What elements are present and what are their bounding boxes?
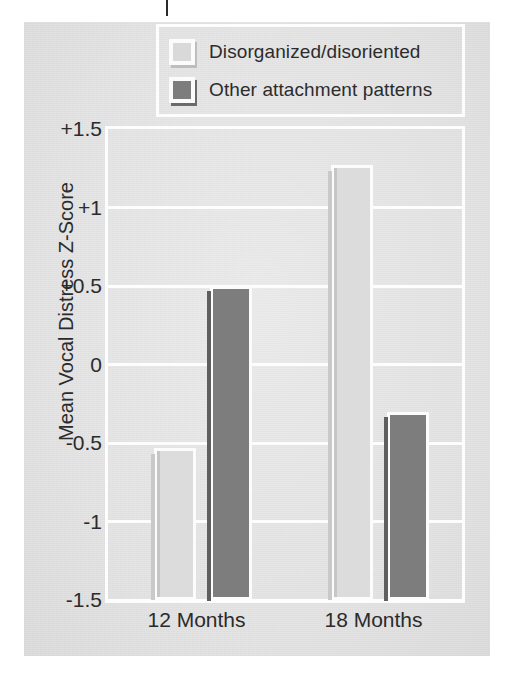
- gridline: [108, 206, 462, 209]
- legend-swatch-light-square-icon: [169, 39, 195, 65]
- y-axis-tick-label: +0.5: [26, 274, 102, 298]
- bar-18-months-series-1: [331, 165, 373, 600]
- gridline: [108, 285, 462, 288]
- bar-12-months-series-2: [210, 286, 252, 600]
- x-axis-tick-label: 18 Months: [285, 608, 462, 632]
- y-axis-tick-label: -1.5: [26, 588, 102, 612]
- y-axis-tick-label: 0: [26, 353, 102, 377]
- legend-swatch-dark-square-icon: [169, 77, 195, 103]
- scan-artifact-mark: [166, 0, 168, 16]
- chart-legend: Disorganized/disoriented Other attachmen…: [156, 24, 465, 117]
- y-axis-tick-label: +1: [26, 196, 102, 220]
- y-axis-tick-label: -0.5: [26, 431, 102, 455]
- x-axis-tick-label: 12 Months: [108, 608, 285, 632]
- bar-12-months-series-1: [154, 448, 196, 600]
- y-axis-tick-labels: +1.5+1+0.50-0.5-1-1.5: [22, 129, 102, 600]
- y-axis-tick-label: +1.5: [26, 117, 102, 141]
- legend-entry-other-attachment-patterns: Other attachment patterns: [169, 71, 462, 109]
- gridline: [108, 363, 462, 366]
- y-axis-tick-label: -1: [26, 510, 102, 534]
- bar-18-months-series-2: [387, 412, 429, 600]
- legend-label-disorganized-disoriented: Disorganized/disoriented: [209, 41, 421, 63]
- legend-label-other-attachment-patterns: Other attachment patterns: [209, 79, 432, 101]
- legend-entry-disorganized-disoriented: Disorganized/disoriented: [169, 33, 462, 71]
- chart-plot-area: [108, 129, 462, 600]
